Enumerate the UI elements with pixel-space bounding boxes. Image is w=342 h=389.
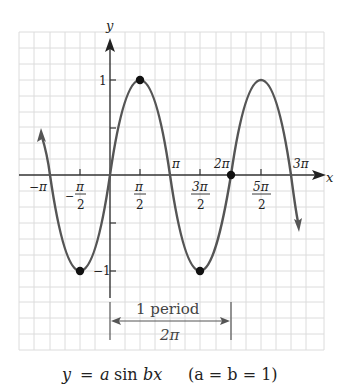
axis-labels: x y 1 −1 −π − π 2 π 2 π 3π 2 2π (29, 18, 334, 344)
caption-eq: = (80, 365, 93, 384)
svg-text:π: π (134, 180, 144, 194)
svg-text:5π: 5π (253, 180, 270, 194)
svg-text:2: 2 (197, 198, 205, 212)
svg-text:π: π (75, 180, 85, 194)
point-min-left (76, 267, 84, 275)
caption-params: (a = b = 1) (188, 365, 278, 384)
point-zero-2pi (227, 171, 235, 179)
x-tick-neg-pi: −π (29, 180, 48, 194)
caption-a: a (100, 365, 110, 384)
caption-lhs: y (61, 365, 72, 384)
svg-text:2: 2 (258, 198, 266, 212)
curve-arrow-left-icon (37, 128, 46, 142)
point-max (136, 76, 144, 84)
y-axis-label: y (105, 18, 114, 33)
caption: y = a sin bx (a = b = 1) (61, 365, 278, 384)
x-tick-pi: π (171, 157, 181, 171)
svg-text:3π: 3π (192, 180, 209, 194)
svg-text:2: 2 (77, 198, 85, 212)
x-axis-label: x (326, 170, 334, 185)
y-tick-1: 1 (99, 74, 107, 88)
y-tick-neg1: −1 (93, 264, 111, 278)
x-tick-3pi: 3π (293, 157, 310, 171)
caption-sin: sin (114, 365, 138, 384)
x-tick-2pi: 2π (213, 157, 231, 171)
svg-text:−: − (65, 190, 74, 203)
point-min-right (196, 267, 204, 275)
period-value: 2π (159, 326, 181, 344)
caption-bx: bx (143, 365, 162, 384)
svg-text:2: 2 (136, 198, 144, 212)
period-label: 1 period (136, 300, 200, 318)
sine-graph: x y 1 −1 −π − π 2 π 2 π 3π 2 2π (0, 0, 342, 389)
